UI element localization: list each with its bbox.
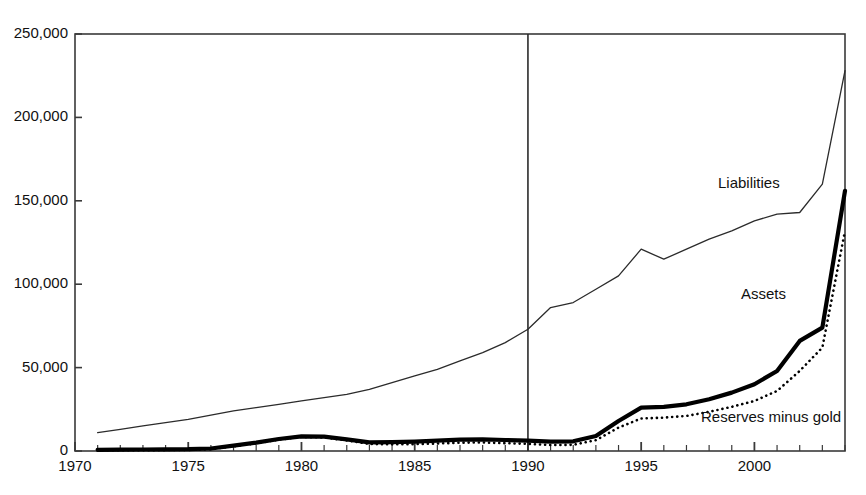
y-axis-tick-label: 250,000 <box>0 24 68 41</box>
y-axis-tick-label: 100,000 <box>0 274 68 291</box>
chart-figure: 050,000100,000150,000200,000250,000 1970… <box>0 0 866 495</box>
y-axis-tick-label: 50,000 <box>0 358 68 375</box>
series-label-assets: Assets <box>741 285 786 302</box>
x-axis-tick-label: 1975 <box>158 457 218 474</box>
x-axis-tick-label: 1995 <box>611 457 671 474</box>
x-axis-tick-label: 1970 <box>45 457 105 474</box>
chart-series-group <box>98 71 845 451</box>
x-axis-tick-label: 1990 <box>498 457 558 474</box>
y-axis-tick-label: 150,000 <box>0 191 68 208</box>
series-line-liabilities <box>98 71 845 433</box>
x-axis-tick-label: 1980 <box>271 457 331 474</box>
y-axis-tick-label: 200,000 <box>0 107 68 124</box>
x-axis-tick-label: 1985 <box>385 457 445 474</box>
series-label-reserves-minus-gold: Reserves minus gold <box>701 408 841 425</box>
y-axis-tick-label: 0 <box>0 441 68 458</box>
x-axis-tick-label: 2000 <box>724 457 784 474</box>
y-axis-ticks <box>75 34 82 451</box>
series-label-liabilities: Liabilities <box>718 174 780 191</box>
axis-frame <box>75 34 845 451</box>
